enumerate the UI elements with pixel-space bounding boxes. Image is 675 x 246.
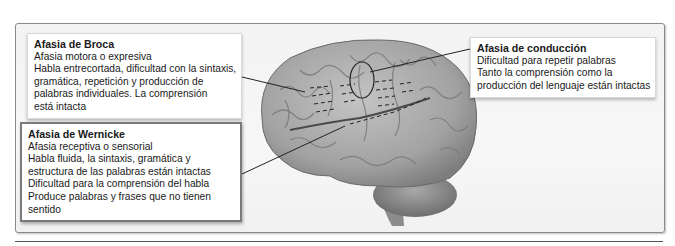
wernicke-line: Afasia receptiva o sensorial (28, 141, 234, 154)
broca-line: Afasia motora o expresiva (34, 51, 235, 64)
wernicke-line: estructura de las palabras están intacta… (28, 166, 234, 179)
broca-aphasia-callout: Afasia de Broca Afasia motora o expresiv… (27, 33, 242, 119)
cerebrum (262, 40, 477, 187)
conduction-aphasia-callout: Afasia de conducción Dificultad para rep… (470, 37, 656, 98)
conduction-line: Tanto la comprensión como la (477, 67, 649, 80)
conduction-title: Afasia de conducción (477, 42, 649, 55)
wernicke-line: Produce palabras y frases que no tienen (28, 191, 234, 204)
broca-line: gramática, repetición y producción de (34, 76, 235, 89)
conduction-line: Dificultad para repetir palabras (477, 55, 649, 68)
wernicke-title: Afasia de Wernicke (28, 128, 234, 141)
bottom-divider (15, 241, 663, 242)
broca-line: está intacta (34, 101, 235, 114)
wernicke-line: sentido (28, 204, 234, 217)
conduction-line: producción del lenguaje están intactas (477, 80, 649, 93)
broca-line: Habla entrecortada, dificultad con la si… (34, 63, 235, 76)
wernicke-line: Dificultad para la comprensión del habla (28, 178, 234, 191)
broca-line: palabras individuales. La comprensión (34, 88, 235, 101)
wernicke-line: Habla fluida, la sintaxis, gramática y (28, 153, 234, 166)
wernicke-aphasia-callout: Afasia de Wernicke Afasia receptiva o se… (20, 122, 242, 222)
broca-title: Afasia de Broca (34, 38, 235, 51)
